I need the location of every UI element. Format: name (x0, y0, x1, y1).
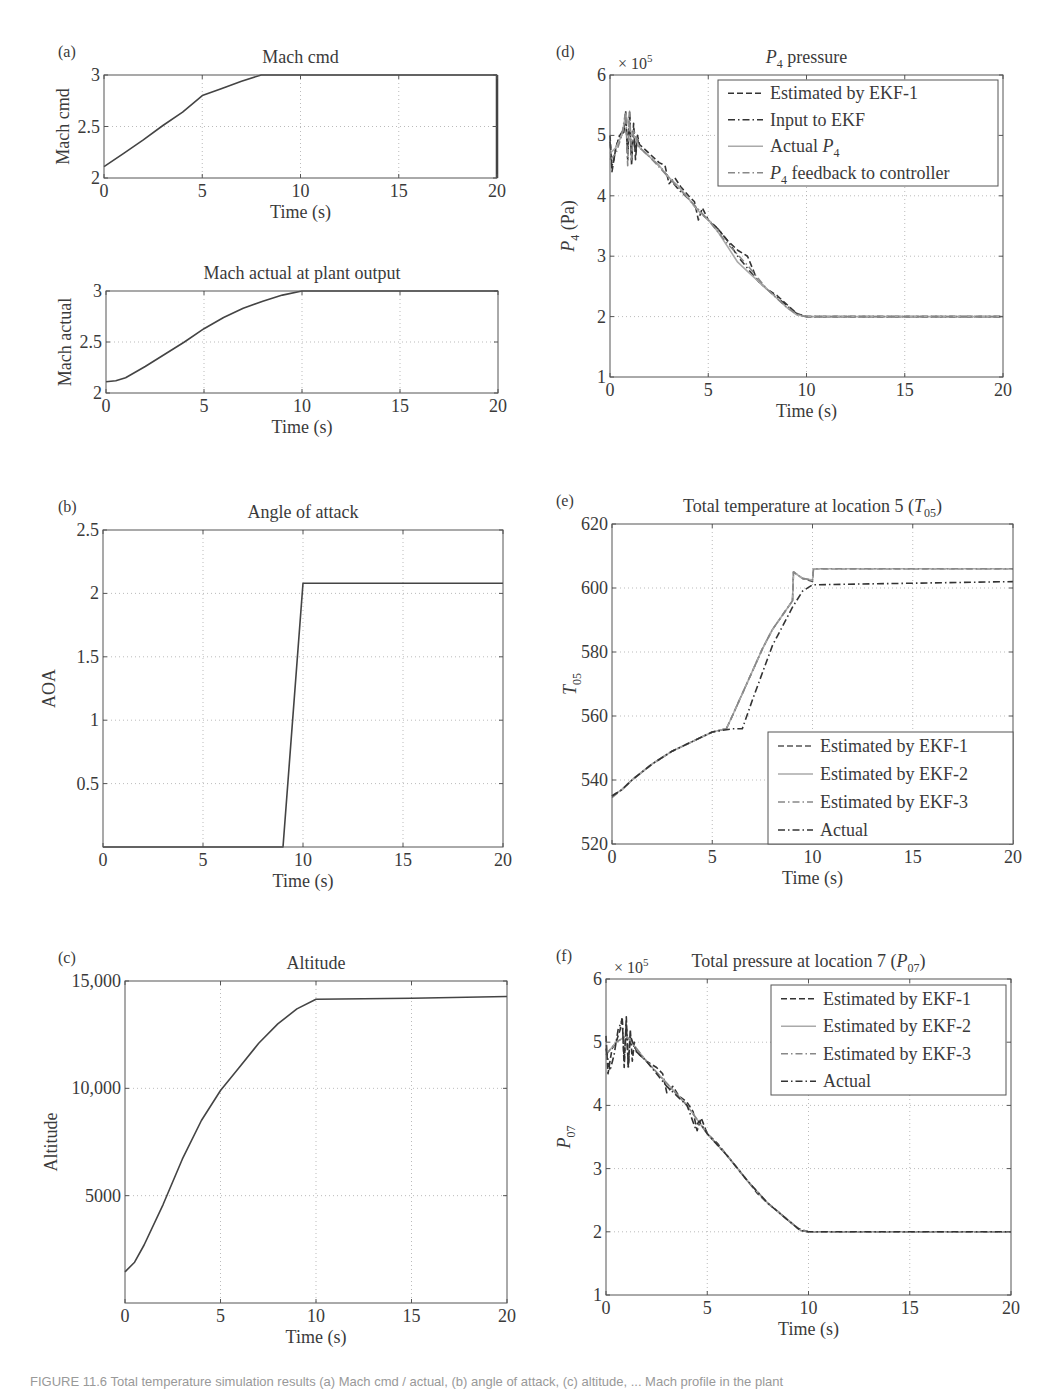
svg-text:20: 20 (494, 850, 512, 870)
svg-text:2.5: 2.5 (78, 117, 101, 137)
legend: Estimated by EKF-1Estimated by EKF-2Esti… (768, 732, 1013, 844)
legend-entry: Estimated by EKF-2 (823, 1016, 971, 1036)
svg-text:0: 0 (100, 181, 109, 201)
svg-text:5: 5 (216, 1306, 225, 1326)
chart-title: Altitude (287, 953, 346, 973)
figure-canvas: 0510152022.53Mach cmd(a)Time (s)Mach cmd… (0, 0, 1052, 1389)
svg-text:1: 1 (90, 710, 99, 730)
svg-text:0: 0 (121, 1306, 130, 1326)
svg-text:10: 10 (798, 380, 816, 400)
svg-text:620: 620 (581, 514, 608, 534)
chart-b: 051015200.511.522.5Angle of attack(b)Tim… (39, 498, 512, 892)
svg-text:20: 20 (498, 1306, 516, 1326)
legend-entry: Estimated by EKF-1 (823, 989, 971, 1009)
panel-label: (c) (58, 949, 76, 967)
svg-text:2.5: 2.5 (77, 520, 100, 540)
svg-text:10: 10 (307, 1306, 325, 1326)
svg-text:5: 5 (704, 380, 713, 400)
svg-text:5: 5 (593, 1032, 602, 1052)
svg-text:0: 0 (602, 1298, 611, 1318)
legend-entry: Estimated by EKF-3 (820, 792, 968, 812)
svg-text:10: 10 (804, 847, 822, 867)
svg-text:5: 5 (597, 125, 606, 145)
legend: Estimated by EKF-1Estimated by EKF-2Esti… (771, 985, 1006, 1095)
x-axis-label: Time (s) (776, 401, 837, 422)
legend-entry: Actual (823, 1071, 871, 1091)
svg-text:20: 20 (1002, 1298, 1020, 1318)
svg-text:5: 5 (199, 850, 208, 870)
y-axis-label: AOA (39, 669, 59, 708)
svg-text:1: 1 (597, 367, 606, 387)
x-axis-label: Time (s) (273, 871, 334, 892)
legend-entry: Estimated by EKF-1 (820, 736, 968, 756)
panel-label: (b) (58, 498, 77, 516)
legend-entry: Input to EKF (770, 110, 865, 130)
svg-text:4: 4 (597, 186, 606, 206)
svg-text:15: 15 (901, 1298, 919, 1318)
y-axis-label: T05 (560, 673, 584, 695)
svg-text:5: 5 (198, 181, 207, 201)
svg-text:2: 2 (593, 1222, 602, 1242)
y-axis-label: Altitude (41, 1112, 61, 1171)
legend: Estimated by EKF-1Input to EKFActual P4P… (718, 80, 998, 187)
svg-text:6: 6 (593, 969, 602, 989)
svg-text:15: 15 (390, 181, 408, 201)
svg-text:15: 15 (391, 396, 409, 416)
legend-entry: Estimated by EKF-2 (820, 764, 968, 784)
chart-a2: 0510152022.53Mach actual at plant output… (55, 263, 507, 438)
svg-text:6: 6 (597, 65, 606, 85)
svg-text:20: 20 (994, 380, 1012, 400)
chart-d: 05101520123456× 105P4 pressure(d)Time (s… (556, 43, 1012, 422)
legend-entry: Estimated by EKF-1 (770, 83, 918, 103)
chart-a1: 0510152022.53Mach cmd(a)Time (s)Mach cmd (53, 43, 506, 223)
svg-text:3: 3 (597, 246, 606, 266)
y-axis-label: Mach actual (55, 298, 75, 386)
chart-title: Mach actual at plant output (204, 263, 401, 283)
svg-text:3: 3 (93, 281, 102, 301)
svg-text:2: 2 (93, 383, 102, 403)
svg-text:4: 4 (593, 1095, 602, 1115)
svg-text:10: 10 (293, 396, 311, 416)
svg-text:5: 5 (200, 396, 209, 416)
svg-text:20: 20 (1004, 847, 1022, 867)
chart-title: Total pressure at location 7 (P07) (691, 951, 925, 975)
svg-text:2: 2 (597, 307, 606, 327)
svg-text:3: 3 (593, 1159, 602, 1179)
svg-text:0: 0 (608, 847, 617, 867)
svg-text:1: 1 (593, 1285, 602, 1305)
svg-text:10: 10 (292, 181, 310, 201)
svg-text:2: 2 (90, 583, 99, 603)
axis-exponent: × 105 (614, 956, 649, 976)
svg-text:10: 10 (294, 850, 312, 870)
svg-text:15,000: 15,000 (72, 971, 122, 991)
svg-text:0: 0 (606, 380, 615, 400)
svg-text:3: 3 (91, 65, 100, 85)
legend-entry: Actual (820, 820, 868, 840)
panel-label: (f) (556, 947, 572, 965)
svg-text:0.5: 0.5 (77, 774, 100, 794)
axis-exponent: × 105 (618, 52, 653, 72)
x-axis-label: Time (s) (782, 868, 843, 889)
svg-text:520: 520 (581, 834, 608, 854)
x-axis-label: Time (s) (778, 1319, 839, 1340)
svg-text:10: 10 (800, 1298, 818, 1318)
svg-text:540: 540 (581, 770, 608, 790)
legend-entry: Estimated by EKF-3 (823, 1044, 971, 1064)
svg-text:1.5: 1.5 (77, 647, 100, 667)
svg-text:5: 5 (708, 847, 717, 867)
svg-text:580: 580 (581, 642, 608, 662)
chart-title: Angle of attack (248, 502, 359, 522)
chart-f: 05101520123456× 105Total pressure at loc… (554, 947, 1020, 1340)
svg-text:15: 15 (394, 850, 412, 870)
svg-text:2: 2 (91, 168, 100, 188)
svg-text:2.5: 2.5 (80, 332, 103, 352)
svg-text:15: 15 (896, 380, 914, 400)
chart-title: Mach cmd (262, 47, 338, 67)
svg-text:15: 15 (403, 1306, 421, 1326)
svg-text:20: 20 (489, 396, 507, 416)
svg-text:600: 600 (581, 578, 608, 598)
x-axis-label: Time (s) (270, 202, 331, 223)
chart-e: 05101520520540560580600620Total temperat… (556, 492, 1022, 889)
panel-label: (e) (556, 492, 574, 510)
svg-text:5000: 5000 (85, 1186, 121, 1206)
